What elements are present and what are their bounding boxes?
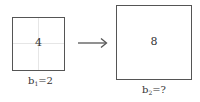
small-square: 4 xyxy=(12,17,65,71)
small-square-value: 4 xyxy=(13,36,64,49)
large-square-value: 8 xyxy=(117,35,191,48)
large-square-label: b2=? xyxy=(142,84,166,96)
small-square-label: b1=2 xyxy=(28,75,53,87)
label-value: =2 xyxy=(38,75,53,86)
large-square: 8 xyxy=(116,5,192,80)
right-arrow-icon xyxy=(76,36,110,50)
label-value: =? xyxy=(152,84,166,95)
